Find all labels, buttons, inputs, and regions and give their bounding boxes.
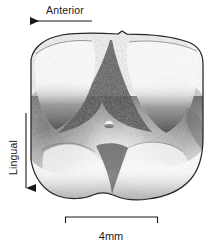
paper-grain-overlay-fine — [20, 25, 215, 210]
figure-canvas: Anterior Lingual 4mm — [0, 0, 221, 252]
tooth-illustration-figure: Anterior Lingual 4mm — [0, 0, 221, 252]
scale-bar-label: 4mm — [99, 230, 123, 242]
tooth-shading-group — [18, 25, 215, 210]
anterior-orientation-marker: Anterior — [30, 4, 92, 21]
lingual-label: Lingual — [7, 140, 19, 175]
specimen-drawing — [18, 25, 215, 210]
anterior-label: Anterior — [46, 4, 84, 16]
scale-bar: 4mm — [65, 217, 158, 242]
lingual-orientation-marker: Lingual — [7, 113, 26, 188]
